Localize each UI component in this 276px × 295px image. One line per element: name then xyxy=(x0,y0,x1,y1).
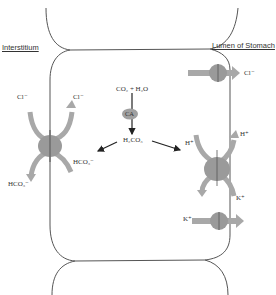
carbonic-acid-label: H₂CO₃ xyxy=(123,137,143,144)
k-label-pump: K⁺ xyxy=(236,195,245,202)
cl-label-right-top: Cl⁻ xyxy=(73,94,84,101)
chloride-bicarbonate-exchanger xyxy=(26,100,76,182)
k-channel-label: K⁺ xyxy=(183,216,192,223)
lumen-label: Lumen of Stomach xyxy=(212,42,275,50)
interstitium-label: Interstitium xyxy=(2,44,39,52)
chloride-channel xyxy=(188,64,240,82)
cell-membrane xyxy=(46,8,238,295)
reactants-label: CO₂ + H₂O xyxy=(116,86,148,93)
cl-label-left-top: Cl⁻ xyxy=(17,94,28,101)
potassium-channel xyxy=(192,212,244,230)
h-label-inner: H⁺ xyxy=(185,140,194,147)
carbonic-anhydrase-label: CA xyxy=(125,111,134,118)
proton-potassium-pump xyxy=(196,130,239,197)
hco3-label-right: HCO₃⁻ xyxy=(73,159,94,166)
cl-channel-label: Cl⁻ xyxy=(244,70,255,77)
h-label-lumen: H⁺ xyxy=(240,131,249,138)
hco3-label-left: HCO₃⁻ xyxy=(8,181,29,188)
